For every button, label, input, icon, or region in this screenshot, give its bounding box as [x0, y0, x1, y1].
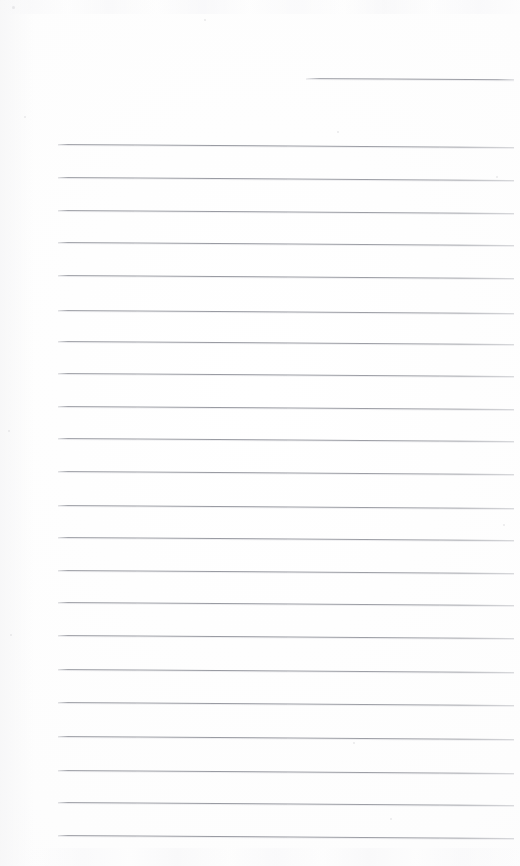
- scan-speck: [496, 176, 498, 178]
- ruled-line: [58, 310, 514, 314]
- ruled-line: [58, 406, 514, 410]
- scan-speck: [503, 524, 505, 526]
- ruled-line: [58, 635, 514, 639]
- ruled-line-partial: [306, 78, 514, 80]
- ruled-line: [58, 537, 514, 541]
- ruled-line: [58, 770, 514, 774]
- paper-surface: [0, 0, 520, 866]
- ruled-line: [58, 438, 514, 442]
- scan-speck: [390, 818, 392, 820]
- ruled-line: [58, 210, 514, 214]
- ruled-line: [58, 835, 514, 839]
- ruled-line: [58, 736, 514, 740]
- scan-speck: [204, 19, 206, 21]
- ruled-line: [58, 669, 514, 673]
- ruled-line: [58, 242, 514, 246]
- scan-speck: [337, 131, 339, 133]
- scan-speck: [12, 6, 15, 9]
- ruled-line: [58, 802, 514, 806]
- scan-speck: [353, 742, 355, 744]
- scan-speck: [24, 116, 26, 118]
- bleed-through-bottom-artifact: [0, 848, 520, 866]
- ruled-line: [58, 570, 514, 574]
- ruled-line: [58, 177, 514, 181]
- ruled-line: [58, 702, 514, 706]
- ruled-line: [58, 144, 514, 148]
- ruled-line: [58, 341, 514, 345]
- ruled-line: [58, 275, 514, 279]
- ruled-line: [58, 471, 514, 475]
- ruled-lines-layer: [0, 0, 520, 866]
- scan-speck: [10, 634, 12, 636]
- ruled-line: [58, 505, 514, 509]
- bleed-through-top-artifact: [0, 0, 520, 14]
- scanned-page: [0, 0, 520, 866]
- ruled-line: [58, 602, 514, 606]
- ruled-line: [58, 373, 514, 377]
- left-gutter-shade: [0, 0, 34, 866]
- scan-speck: [8, 430, 10, 432]
